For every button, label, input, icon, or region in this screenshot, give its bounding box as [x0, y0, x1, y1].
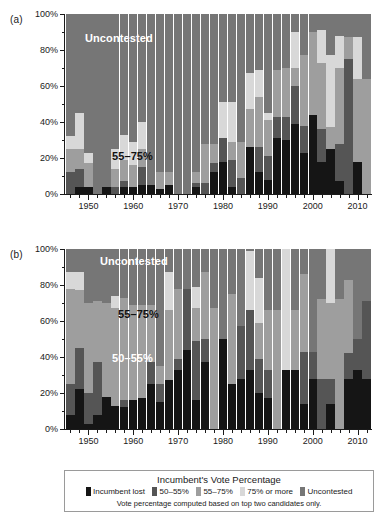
x-tick-label: 1980 — [213, 436, 233, 446]
bar-segment — [75, 149, 83, 169]
bar-segment — [344, 280, 352, 354]
x-tick-mark-major — [88, 195, 89, 200]
bar-2012 — [362, 249, 370, 429]
bar-segment — [300, 153, 308, 194]
bar-segment — [111, 187, 119, 194]
bar-2006 — [335, 249, 343, 429]
x-tick-mark-major — [358, 195, 359, 200]
bar-segment — [192, 400, 200, 429]
bar-segment — [165, 310, 173, 380]
y-tick-label: 80% — [40, 280, 58, 290]
panel-b-x-axis: 1950196019701980199020002010 — [64, 430, 372, 456]
x-tick-label: 1980 — [213, 201, 233, 211]
bar-segment — [264, 113, 272, 120]
x-tick-mark — [304, 195, 305, 198]
bar-1960 — [129, 249, 137, 429]
x-tick-mark — [277, 430, 278, 433]
bar-1976 — [201, 249, 209, 429]
bar-segment — [353, 14, 361, 37]
x-tick-label: 1960 — [123, 436, 143, 446]
bar-segment — [165, 172, 173, 185]
bar-segment — [237, 142, 245, 178]
bar-segment — [201, 362, 209, 429]
legend-item-label: 55–75% — [203, 487, 232, 496]
x-tick-mark — [340, 430, 341, 433]
legend-item[interactable]: Incumbent lost — [86, 487, 146, 496]
x-tick-mark — [187, 195, 188, 198]
bar-segment — [353, 370, 361, 429]
bar-segment — [273, 249, 281, 310]
bar-1994 — [282, 249, 290, 429]
legend-item[interactable]: Uncontested — [300, 487, 352, 496]
bar-segment — [138, 122, 146, 149]
bar-segment — [326, 303, 334, 379]
bar-segment — [183, 249, 191, 289]
panel-b-y-axis: 0%20%40%60%80%100% — [28, 249, 64, 429]
bar-segment — [309, 115, 317, 194]
bar-segment — [192, 287, 200, 309]
x-tick-mark — [277, 195, 278, 198]
bar-segment — [264, 180, 272, 194]
bar-segment — [75, 113, 83, 149]
x-tick-mark — [124, 430, 125, 433]
bar-segment — [282, 140, 290, 194]
bar-segment — [344, 14, 352, 37]
x-tick-mark — [79, 430, 80, 433]
x-tick-mark — [187, 430, 188, 433]
bar-segment — [219, 339, 227, 429]
legend-item[interactable]: 75% or more — [240, 487, 293, 496]
x-tick-mark — [160, 430, 161, 433]
bar-segment — [228, 249, 236, 294]
bar-segment — [335, 144, 343, 182]
bar-segment — [174, 249, 182, 289]
bar-1996 — [291, 14, 299, 194]
x-tick-mark — [322, 430, 323, 433]
bar-segment — [111, 296, 119, 309]
bar-segment — [219, 138, 227, 161]
bar-segment — [183, 14, 191, 194]
panel-b-y-axis-line — [64, 249, 65, 429]
x-tick-mark — [304, 430, 305, 433]
bar-segment — [138, 398, 146, 429]
bar-segment — [255, 14, 263, 70]
x-tick-mark — [106, 195, 107, 198]
bar-segment — [228, 142, 236, 160]
x-tick-mark-major — [268, 195, 269, 200]
x-tick-mark — [151, 195, 152, 198]
bar-1998 — [300, 249, 308, 429]
bar-segment — [353, 162, 361, 194]
bar-segment — [93, 362, 101, 414]
x-tick-mark — [106, 430, 107, 433]
legend-item[interactable]: 55–75% — [196, 487, 233, 496]
x-tick-mark — [349, 195, 350, 198]
bar-segment — [291, 32, 299, 68]
bar-2004 — [326, 249, 334, 429]
x-tick-mark — [340, 195, 341, 198]
bar-1974 — [192, 249, 200, 429]
bar-segment — [75, 249, 83, 272]
bar-segment — [362, 14, 370, 79]
legend-title: Incumbent's Vote Percentage — [65, 474, 373, 485]
bar-segment — [264, 398, 272, 429]
x-tick-mark — [250, 195, 251, 198]
bar-segment — [264, 14, 272, 113]
bar-segment — [111, 406, 119, 429]
x-tick-mark — [367, 430, 368, 433]
legend-item[interactable]: 50–55% — [152, 487, 189, 496]
bar-segment — [120, 160, 128, 182]
bar-1986 — [246, 249, 254, 429]
bar-segment — [129, 165, 137, 187]
bar-segment — [192, 341, 200, 400]
bar-1990 — [264, 14, 272, 194]
bar-1964 — [147, 249, 155, 429]
x-tick-mark-major — [223, 430, 224, 435]
bar-segment — [156, 172, 164, 188]
bar-1984 — [237, 14, 245, 194]
y-tick-label: 80% — [40, 45, 58, 55]
x-tick-mark-major — [268, 430, 269, 435]
bar-segment — [362, 79, 370, 194]
bar-segment — [228, 294, 236, 384]
bar-2012 — [362, 14, 370, 194]
x-tick-mark — [286, 195, 287, 198]
bar-segment — [282, 249, 290, 370]
